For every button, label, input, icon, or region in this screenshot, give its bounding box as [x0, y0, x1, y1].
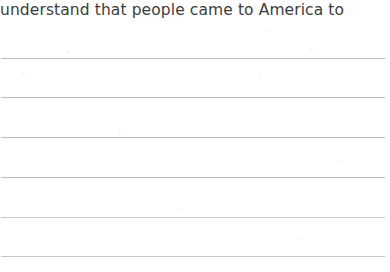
worksheet-page: understand that people came to America t…: [0, 0, 390, 272]
rule-line-5: [1, 217, 385, 218]
rule-line-2: [1, 97, 385, 98]
rule-line-1: [1, 58, 385, 59]
ruled-lines-group: [0, 0, 390, 272]
rule-line-3: [1, 137, 385, 138]
rule-line-6: [1, 256, 385, 257]
rule-line-4: [1, 177, 385, 178]
